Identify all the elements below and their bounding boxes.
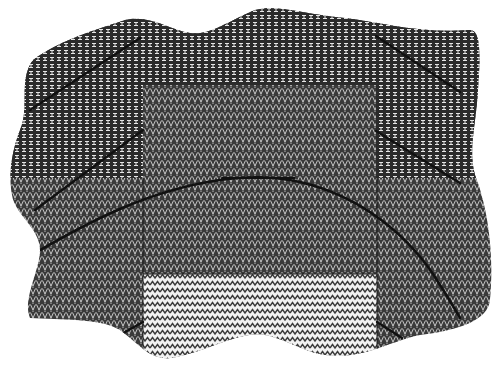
swatch — [0, 0, 493, 371]
region-light — [143, 274, 377, 371]
fabric-swatch-figure — [0, 0, 493, 371]
